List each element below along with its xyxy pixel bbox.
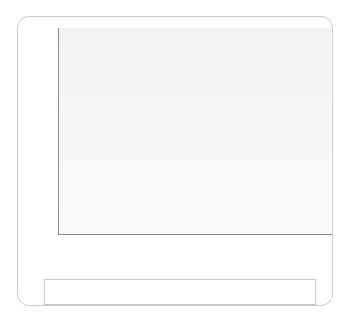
chart-figure xyxy=(17,16,333,306)
x-axis-line xyxy=(58,234,332,235)
y-axis-line xyxy=(58,28,59,235)
stacked-area-svg xyxy=(59,28,331,234)
chart-legend xyxy=(44,279,316,305)
plot-wrapper xyxy=(59,28,331,234)
plot-area xyxy=(59,28,331,234)
